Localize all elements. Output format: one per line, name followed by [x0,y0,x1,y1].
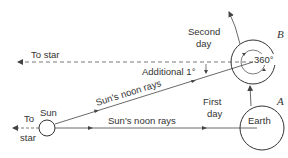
noon-rays-diagonal-label: Sun's noon rays [94,77,162,108]
ray-arrow-icon [202,126,207,130]
to-star-top-label: To star [31,49,60,60]
to-star-left-label-1: To [24,113,34,124]
point-a-label: A [276,95,284,107]
orbit-arrow-a-to-b [250,86,251,106]
ray-arrow-icon [88,126,93,130]
second-day-label-2: day [196,38,212,49]
angle-arrow-icon [204,70,208,74]
point-b-label: B [277,28,284,40]
rotation-label: 360° [254,54,274,65]
noon-rays-horizontal-label: Sun's noon rays [108,115,176,126]
orbit-arrow-out [229,12,240,44]
first-day-label-1: First [203,96,222,107]
solar-vs-sidereal-day-diagram: To star To star Sun Sun's noon rays Sun'… [0,0,288,158]
ray-arrow-icon [94,110,99,114]
ray-arrow-icon [191,80,196,83]
first-day-label-2: day [207,108,223,119]
to-star-left-label-2: star [20,132,36,143]
sun-circle [39,120,55,136]
earth-label: Earth [248,115,271,126]
sun-label: Sun [40,107,57,118]
second-day-label-1: Second [188,26,220,37]
additional-angle-label: Additional 1° [142,66,196,77]
